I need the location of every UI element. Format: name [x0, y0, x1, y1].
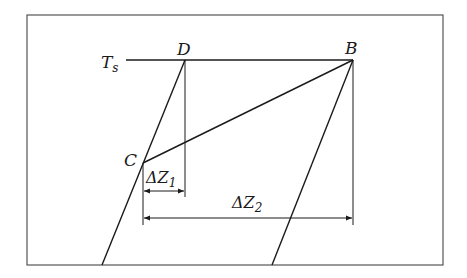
- ts-label: Ts: [101, 52, 119, 75]
- point-b-label: B: [344, 38, 358, 58]
- dz1-label: ΔZ1: [145, 168, 176, 190]
- diagram-canvas: Ts D B C ΔZ1 ΔZ2: [0, 0, 467, 278]
- point-d-label: D: [176, 39, 191, 59]
- point-c-label: C: [124, 150, 137, 170]
- right-curve-line: [272, 60, 353, 265]
- dz2-label: ΔZ2: [231, 193, 262, 215]
- cb-line: [143, 60, 353, 163]
- frame: [27, 15, 443, 265]
